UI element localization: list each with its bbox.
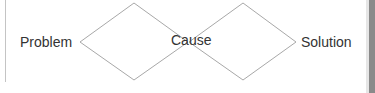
label-solution: Solution (301, 34, 352, 50)
label-problem: Problem (20, 34, 72, 50)
label-cause: Cause (171, 32, 211, 48)
scrollbar-thumb[interactable] (369, 0, 375, 93)
